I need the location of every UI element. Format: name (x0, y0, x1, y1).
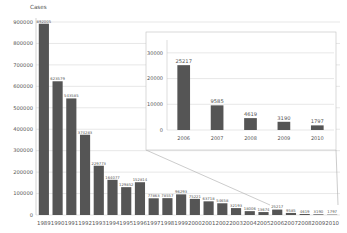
x-tick-label: 2007 (284, 220, 298, 226)
bar-value-label: 75221 (189, 194, 202, 199)
inset-bar-value-label: 1797 (311, 118, 324, 124)
x-tick-label: 1998 (161, 220, 175, 226)
inset-y-tick-label: 10000 (147, 101, 163, 107)
x-tick-label: 1990 (51, 220, 65, 226)
bar-value-label: 164077 (105, 175, 120, 180)
inset-x-tick-label: 2009 (278, 135, 291, 141)
x-tick-label: 2005 (257, 220, 271, 226)
bar-2006 (272, 210, 282, 215)
x-tick-label: 1989 (37, 220, 51, 226)
inset-frame (146, 32, 336, 150)
x-tick-label: 1997 (147, 220, 161, 226)
bar-value-label: 9585 (286, 208, 296, 213)
y-tick-label: 800000 (13, 40, 33, 46)
bar-1999 (176, 194, 186, 215)
inset-connector-lines (146, 150, 338, 205)
y-axis-title: Cases (30, 4, 47, 10)
inset-bar-2008 (244, 118, 257, 130)
inset-y-tick-label: 20000 (147, 75, 163, 81)
bar-2003 (231, 208, 241, 215)
x-tick-label: 2002 (215, 220, 229, 226)
x-tick-label: 1991 (64, 220, 78, 226)
inset-x-tick-label: 2006 (177, 135, 190, 141)
x-tick-label: 2010 (325, 220, 339, 226)
bar-value-label: 77863 (148, 193, 161, 198)
bar-2002 (217, 203, 227, 215)
bar-value-label: 96293 (175, 189, 188, 194)
inset-bar-value-label: 4619 (244, 111, 257, 117)
y-tick-label: 500000 (13, 105, 33, 111)
x-tick-label: 1996 (133, 220, 147, 226)
bar-value-label: 63718 (203, 196, 216, 201)
y-tick-label: 0 (30, 212, 33, 218)
x-tick-label: 2008 (298, 220, 312, 226)
inset-bar-2009 (278, 122, 291, 130)
bar-2001 (204, 201, 214, 215)
bar-2000 (190, 199, 200, 215)
inset-x-tick-label: 2008 (244, 135, 257, 141)
y-tick-label: 200000 (13, 169, 33, 175)
x-tick-label: 2003 (229, 220, 243, 226)
bar-1990 (53, 81, 63, 215)
y-tick-label: 900000 (13, 19, 33, 25)
bar-value-label: 623579 (50, 76, 65, 81)
bar-2005 (258, 212, 268, 215)
x-tick-label: 1992 (78, 220, 92, 226)
x-tick-label: 2001 (202, 220, 216, 226)
bar-1991 (66, 98, 76, 215)
bar-value-label: 1797 (327, 209, 337, 214)
bar-value-label: 32193 (230, 203, 243, 208)
bar-value-label: 543585 (64, 93, 79, 98)
y-tick-label: 700000 (13, 62, 33, 68)
inset-y-tick-label: 0 (160, 127, 163, 133)
bar-value-label: 13674 (257, 207, 270, 212)
bar-1998 (162, 198, 172, 215)
inset-y-tick-label: 30000 (147, 50, 163, 56)
inset-bar-2006 (177, 65, 190, 130)
inset-bar-value-label: 9585 (210, 98, 223, 104)
bar-value-label: 25217 (271, 204, 284, 209)
bar-1996 (135, 182, 145, 215)
inset-bar-value-label: 3190 (277, 115, 290, 121)
bar-value-label: 78557 (161, 193, 174, 198)
bar-value-label: 374283 (78, 130, 93, 135)
inset-bar-2010 (311, 125, 324, 130)
bar-1992 (80, 135, 90, 215)
inset-x-tick-label: 2007 (211, 135, 224, 141)
bar-value-label: 229773 (92, 161, 107, 166)
inset-x-tick-label: 2010 (311, 135, 324, 141)
bar-2008 (300, 214, 310, 215)
x-tick-label: 2006 (270, 220, 284, 226)
y-tick-label: 400000 (13, 126, 33, 132)
y-tick-label: 300000 (13, 147, 33, 153)
bar-value-label: 54658 (216, 198, 229, 203)
x-tick-label: 1995 (119, 220, 133, 226)
bar-1995 (121, 187, 131, 215)
inset-bar-value-label: 25217 (175, 58, 192, 64)
bar-2007 (286, 213, 296, 215)
x-tick-label: 1999 (174, 220, 188, 226)
x-tick-label: 2004 (243, 220, 257, 226)
bar-1989 (39, 24, 49, 215)
main-y-axis-ticks: 0100000200000300000400000500000600000700… (13, 19, 33, 218)
bar-value-label: 3190 (314, 209, 324, 214)
bar-chart: Cases 0100000200000300000400000500000600… (0, 0, 347, 233)
bar-2004 (245, 211, 255, 215)
bar-value-label: 18006 (244, 206, 257, 211)
bar-1994 (107, 180, 117, 215)
bar-2009 (313, 214, 323, 215)
x-tick-label: 1993 (92, 220, 106, 226)
main-x-axis-ticks: 1989199019911992199319941995199619971998… (37, 220, 340, 226)
y-tick-label: 100000 (13, 190, 33, 196)
x-tick-label: 2000 (188, 220, 202, 226)
x-tick-label: 1994 (106, 220, 120, 226)
bar-value-label: 4619 (300, 209, 310, 214)
bar-value-label: 892005 (37, 19, 52, 24)
bar-value-label: 152814 (133, 177, 148, 182)
bar-1993 (94, 166, 104, 215)
bar-1997 (149, 198, 159, 215)
y-tick-label: 600000 (13, 83, 33, 89)
bar-value-label: 129852 (119, 182, 134, 187)
x-tick-label: 2009 (312, 220, 326, 226)
inset-bar-2007 (211, 105, 224, 130)
